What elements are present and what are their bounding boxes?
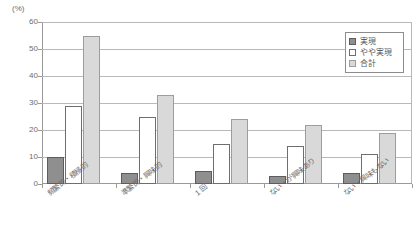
y-tick-label: 20 [12, 126, 38, 134]
legend-item-2: 合計 [349, 58, 399, 69]
y-axis-unit-label: (%) [12, 4, 24, 13]
x-tick-mark [190, 184, 191, 188]
legend-label: 合計 [360, 59, 376, 68]
legend-swatch-icon [349, 38, 356, 45]
y-tick-label: 50 [12, 45, 38, 53]
legend-item-1: やや実現 [349, 47, 399, 58]
y-tick-label: 10 [12, 153, 38, 161]
bar-chart: (%) 0102030405060 頻繁的・積極的準繁的・興味的1 回ない・が興… [0, 0, 417, 246]
y-tick-mark [38, 103, 42, 104]
legend-label: やや実現 [360, 48, 392, 57]
x-tick-mark [42, 184, 43, 188]
y-tick-label: 60 [12, 18, 38, 26]
y-tick-mark [38, 76, 42, 77]
gridline [42, 22, 412, 23]
y-tick-mark [38, 22, 42, 23]
legend-swatch-icon [349, 49, 356, 56]
y-tick-mark [38, 130, 42, 131]
y-tick-label: 30 [12, 99, 38, 107]
x-tick-mark [412, 184, 413, 188]
y-tick-label: 40 [12, 72, 38, 80]
legend-swatch-icon [349, 60, 356, 67]
y-tick-mark [38, 157, 42, 158]
legend-item-0: 実現 [349, 36, 399, 47]
bar [305, 125, 322, 184]
x-tick-mark [116, 184, 117, 188]
x-tick-mark [338, 184, 339, 188]
bar [213, 144, 230, 185]
chart-legend: 実現 やや実現 合計 [345, 32, 404, 73]
y-tick-label: 0 [12, 180, 38, 188]
x-tick-mark [264, 184, 265, 188]
y-tick-mark [38, 49, 42, 50]
bar [231, 119, 248, 184]
legend-label: 実現 [360, 37, 376, 46]
